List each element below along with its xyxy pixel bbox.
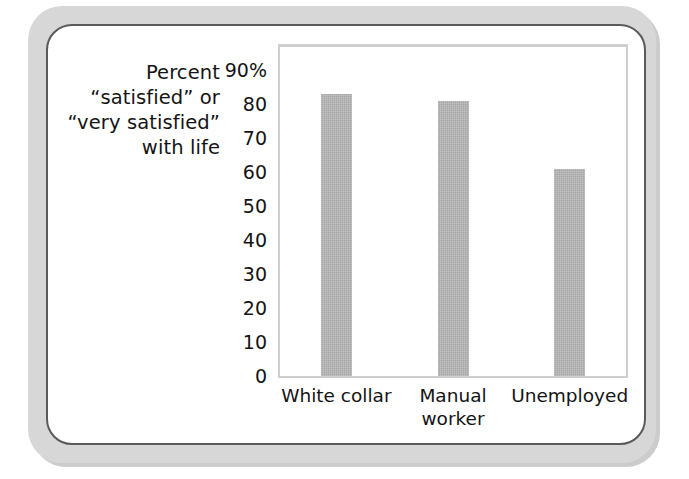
y-tick-label-40: 40 [243,231,267,250]
y-tick-label-50: 50 [243,197,267,216]
y-axis-tick-labels: 90%80706050403020100 [215,44,273,384]
y-tick-label-60: 60 [243,163,267,182]
x-tick-label-manual-worker: Manualworker [419,384,486,430]
y-tick-label-20: 20 [243,299,267,318]
x-tick-label-white-collar: White collar [281,384,391,407]
figure-root: Percent “satisfied” or “very satisfied” … [0,0,689,479]
x-tick-label-unemployed: Unemployed [511,384,628,407]
y-axis-caption: Percent “satisfied” or “very satisfied” … [60,60,220,160]
y-axis-caption-line-1: Percent [60,60,220,85]
y-axis-caption-line-3: “very satisfied” [60,110,220,135]
x-tick-label-line: White collar [281,384,391,407]
bar-white-collar [321,94,352,376]
x-tick-label-line: Manual [419,384,486,407]
y-tick-label-10: 10 [243,333,267,352]
y-tick-label-90: 90% [225,61,267,80]
bar-unemployed [554,169,585,376]
y-tick-label-0: 0 [255,367,267,386]
x-tick-label-line: worker [419,407,486,430]
bar-manual-worker [438,101,469,376]
bar-series [278,44,628,378]
y-axis-caption-line-4: with life [60,135,220,160]
y-tick-label-80: 80 [243,95,267,114]
x-tick-label-line: Unemployed [511,384,628,407]
plot-wrap [278,44,628,378]
y-tick-label-30: 30 [243,265,267,284]
y-axis-caption-line-2: “satisfied” or [60,85,220,110]
y-tick-label-70: 70 [243,129,267,148]
x-axis-tick-labels: White collarManualworkerUnemployed [278,384,628,454]
